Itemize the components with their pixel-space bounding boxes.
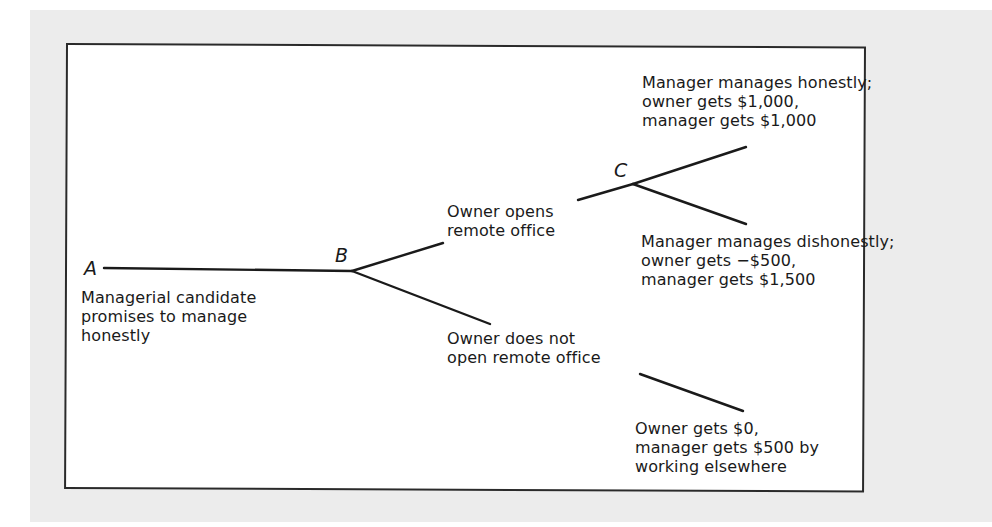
outcome-dishonest-line-1: Manager manages dishonestly; xyxy=(641,232,895,251)
outcome-no-office: Owner gets $0, manager gets $500 by work… xyxy=(635,419,819,476)
outcome-honest-line-1: Manager manages honestly; xyxy=(642,73,872,92)
node-a-description: Managerial candidate promises to manage … xyxy=(81,288,256,345)
edge-open-office-to-c xyxy=(578,184,633,200)
node-b-label: B xyxy=(335,245,348,265)
edge-c-to-honest xyxy=(633,147,746,184)
outcome-honest-line-3: manager gets $1,000 xyxy=(642,111,872,130)
node-a-label: A xyxy=(84,258,97,278)
node-a-description-line-2: promises to manage xyxy=(81,307,256,326)
outcome-no-office-line-3: working elsewhere xyxy=(635,457,819,476)
branch-open-office-line-1: Owner opens xyxy=(447,202,555,221)
edge-no-office-to-outcome xyxy=(640,374,743,411)
node-a-description-line-3: honestly xyxy=(81,326,256,345)
outcome-dishonest: Manager manages dishonestly; owner gets … xyxy=(641,232,895,289)
outcome-no-office-line-1: Owner gets $0, xyxy=(635,419,819,438)
branch-open-office-line-2: remote office xyxy=(447,221,555,240)
branch-no-office-line-2: open remote office xyxy=(447,348,601,367)
node-c-label: C xyxy=(614,160,627,180)
edge-b-to-no-office xyxy=(352,271,490,324)
outcome-dishonest-line-3: manager gets $1,500 xyxy=(641,270,895,289)
branch-no-office-line-1: Owner does not xyxy=(447,329,601,348)
outcome-dishonest-line-2: owner gets −$500, xyxy=(641,251,895,270)
edge-a-to-b xyxy=(104,268,352,271)
branch-open-office-label: Owner opens remote office xyxy=(447,202,555,240)
edge-b-to-open-office xyxy=(352,243,443,271)
branch-no-office-label: Owner does not open remote office xyxy=(447,329,601,367)
outcome-no-office-line-2: manager gets $500 by xyxy=(635,438,819,457)
outcome-honest-line-2: owner gets $1,000, xyxy=(642,92,872,111)
node-a-description-line-1: Managerial candidate xyxy=(81,288,256,307)
edge-c-to-dishonest xyxy=(633,184,746,224)
outcome-honest: Manager manages honestly; owner gets $1,… xyxy=(642,73,872,130)
